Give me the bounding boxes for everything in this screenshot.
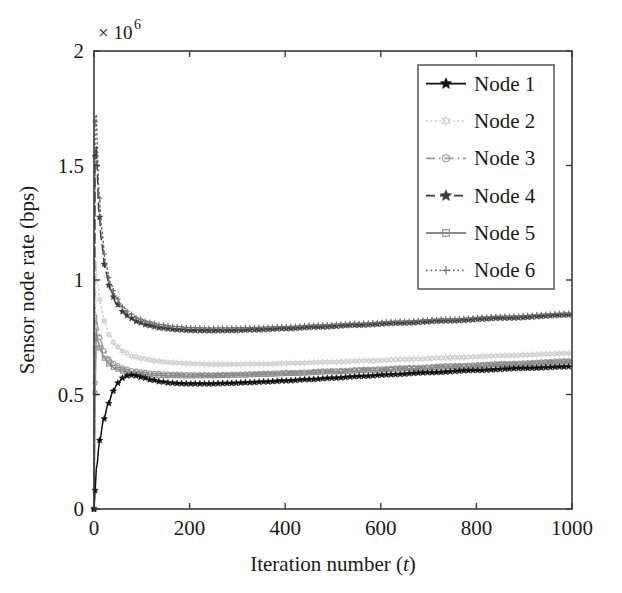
x-axis-title: Iteration number (t): [250, 552, 416, 576]
svg-text:× 10: × 10: [98, 22, 132, 43]
x-tick-label: 0: [89, 516, 100, 540]
marker-star: [101, 415, 107, 421]
y-axis-title: Sensor node rate (bps): [15, 186, 39, 374]
marker-star: [106, 400, 112, 406]
series-node-1: [91, 363, 572, 512]
svg-text:6: 6: [134, 17, 141, 32]
marker-hexagram: [129, 353, 134, 358]
y-tick-label: 2: [74, 39, 85, 63]
y-tick-label: 0.5: [58, 383, 84, 407]
legend-label: Node 6: [474, 258, 535, 282]
legend-label: Node 2: [474, 109, 535, 133]
chart-figure: 0200400600800100000.511.52× 106Iteration…: [0, 0, 622, 593]
series-line: [94, 329, 572, 509]
legend-label: Node 1: [474, 72, 535, 96]
series-line: [94, 367, 572, 509]
y-tick-label: 0: [74, 497, 85, 521]
y-tick-label: 1.5: [58, 154, 84, 178]
series-line: [94, 314, 572, 509]
y-axis-multiplier: × 106: [98, 17, 141, 43]
legend-label: Node 3: [474, 146, 535, 170]
y-tick-label: 1: [74, 268, 85, 292]
x-tick-label: 400: [269, 516, 301, 540]
legend-label: Node 5: [474, 221, 535, 245]
chart-legend[interactable]: Node 1Node 2Node 3Node 4Node 5Node 6: [418, 65, 554, 289]
chart-canvas: 0200400600800100000.511.52× 106Iteration…: [0, 0, 622, 593]
x-tick-label: 600: [365, 516, 397, 540]
x-tick-label: 200: [174, 516, 206, 540]
legend-box: [418, 65, 554, 289]
x-tick-label: 1000: [551, 516, 593, 540]
x-tick-label: 800: [461, 516, 493, 540]
legend-label: Node 4: [474, 184, 536, 208]
series-node-3: [92, 314, 572, 512]
marker-star: [342, 374, 348, 380]
marker-circle: [102, 349, 106, 353]
series-line: [94, 262, 572, 509]
series-node-2: [92, 262, 572, 512]
